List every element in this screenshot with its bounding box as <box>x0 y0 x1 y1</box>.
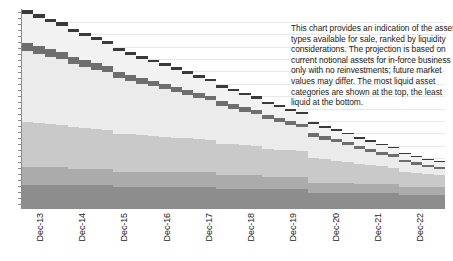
y-axis-tick <box>18 60 21 61</box>
x-axis-label-dec-22: Dec-22 <box>415 213 426 259</box>
y-axis-tick <box>18 36 21 37</box>
y-axis-tick <box>18 18 21 19</box>
x-axis-label-dec-15: Dec-15 <box>119 213 130 259</box>
x-axis-line <box>21 208 445 209</box>
y-axis-tick <box>18 198 21 199</box>
y-axis-tick <box>18 42 21 43</box>
y-axis-tick <box>18 192 21 193</box>
y-axis-tick <box>18 90 21 91</box>
y-axis-tick <box>18 138 21 139</box>
description-line: only with no reinvestments; future marke… <box>291 65 447 76</box>
y-axis-tick <box>18 132 21 133</box>
x-axis-label-dec-21: Dec-21 <box>373 213 384 259</box>
description-line: liquid at the bottom. <box>291 97 447 108</box>
y-axis-tick <box>18 204 21 205</box>
y-axis-tick <box>18 78 21 79</box>
description-line: considerations. The projection is based … <box>291 44 447 55</box>
x-axis-label-dec-20: Dec-20 <box>331 213 342 259</box>
y-axis-line <box>21 9 22 209</box>
description-line: values may differ. The most liquid asset <box>291 76 447 87</box>
y-axis-tick <box>18 156 21 157</box>
y-axis-tick <box>18 120 21 121</box>
description-line: This chart provides an indication of the… <box>291 23 447 34</box>
y-axis-tick <box>18 54 21 55</box>
chart-figure: Dec-13Dec-14Dec-15Dec-16Dec-17Dec-18Dec-… <box>0 0 453 261</box>
x-axis-label-dec-18: Dec-18 <box>246 213 257 259</box>
y-axis-tick <box>18 150 21 151</box>
y-axis-tick <box>18 84 21 85</box>
y-axis-tick <box>18 72 21 73</box>
x-axis-label-dec-14: Dec-14 <box>77 213 88 259</box>
y-axis-tick <box>18 162 21 163</box>
y-axis-tick <box>18 168 21 169</box>
y-axis-tick <box>18 66 21 67</box>
description-line: categories are shown at the top, the lea… <box>291 87 447 98</box>
x-axis-label-dec-16: Dec-16 <box>162 213 173 259</box>
x-axis-label-dec-19: Dec-19 <box>288 213 299 259</box>
y-axis-tick <box>18 174 21 175</box>
chart-description: This chart provides an indication of the… <box>291 23 447 108</box>
y-axis-tick <box>18 144 21 145</box>
y-axis-tick <box>18 24 21 25</box>
x-axis-label-dec-17: Dec-17 <box>204 213 215 259</box>
y-axis-tick <box>18 12 21 13</box>
description-line: current notional assets for in-force bus… <box>291 55 447 66</box>
description-line: types available for sale, ranked by liqu… <box>291 34 447 45</box>
y-axis-tick <box>18 126 21 127</box>
y-axis-tick <box>18 102 21 103</box>
y-axis-tick <box>18 108 21 109</box>
x-axis-label-dec-13: Dec-13 <box>35 213 46 259</box>
y-axis-tick <box>18 96 21 97</box>
y-axis-tick <box>18 114 21 115</box>
y-axis-tick <box>18 186 21 187</box>
y-axis-tick <box>18 30 21 31</box>
y-axis-tick <box>18 48 21 49</box>
y-axis-tick <box>18 180 21 181</box>
